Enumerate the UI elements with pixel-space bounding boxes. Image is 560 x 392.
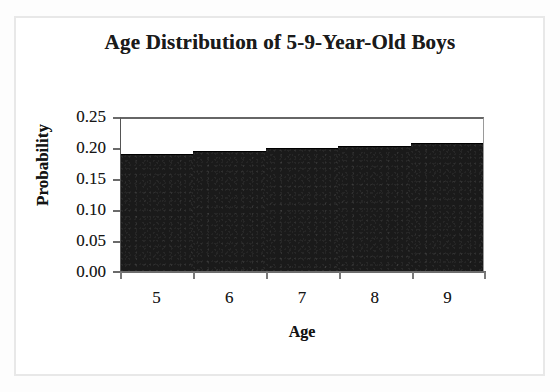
- bar-age-8: [338, 146, 410, 271]
- x-tick-label-1: 6: [193, 288, 266, 308]
- bar-age-9: [411, 143, 483, 271]
- bar-series: [121, 119, 483, 271]
- plot-area: [120, 117, 484, 271]
- bar-age-6: [193, 151, 265, 271]
- x-axis-title: Age: [120, 323, 484, 341]
- chart-figure: Age Distribution of 5-9-Year-Old Boys 0.…: [0, 0, 560, 392]
- x-tick-mark-2: [266, 272, 268, 279]
- y-tick-label-5: 0.00: [42, 262, 106, 282]
- x-tick-label-0: 5: [120, 288, 193, 308]
- x-tick-label-4: 9: [411, 288, 484, 308]
- x-tick-label-3: 8: [338, 288, 411, 308]
- y-axis-title: Probability: [33, 95, 53, 235]
- x-tick-mark-5: [484, 272, 486, 279]
- x-axis-line: [120, 271, 486, 273]
- x-tick-label-2: 7: [266, 288, 339, 308]
- x-tick-mark-4: [412, 272, 414, 279]
- bar-age-7: [266, 148, 338, 271]
- x-tick-mark-3: [339, 272, 341, 279]
- x-tick-mark-1: [193, 272, 195, 279]
- x-axis-tick-labels: 5 6 7 8 9: [120, 288, 484, 308]
- x-tick-mark-0: [120, 272, 122, 279]
- bar-age-5: [121, 154, 193, 271]
